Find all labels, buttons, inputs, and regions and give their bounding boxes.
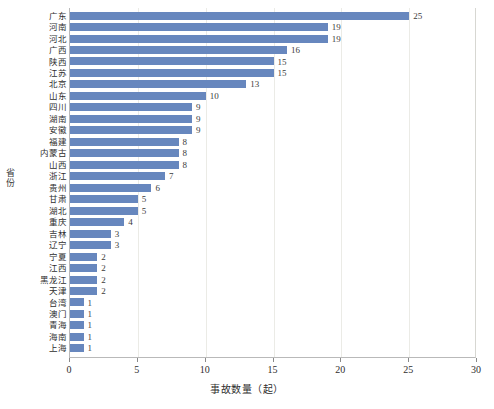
bar-value-label: 19	[332, 34, 341, 43]
bar	[70, 23, 328, 31]
category-label: 江西	[49, 264, 67, 273]
bar	[70, 207, 138, 215]
x-tick-mark	[273, 358, 274, 362]
bar-value-label: 25	[413, 11, 422, 20]
bar	[70, 149, 179, 157]
category-label: 广西	[49, 46, 67, 55]
bar-chart: 省 份 广东25河南19河北19广西16陕西15江苏15北京13山东10四川9湖…	[0, 0, 494, 409]
x-tick-mark	[408, 358, 409, 362]
bar-row: 内蒙古8	[70, 148, 477, 159]
bar	[70, 172, 165, 180]
bar-row: 湖南9	[70, 113, 477, 124]
bar-row: 江苏15	[70, 67, 477, 78]
bar-row: 澳门1	[70, 308, 477, 319]
bar	[70, 35, 328, 43]
bar-row: 贵州6	[70, 182, 477, 193]
bar-value-label: 1	[88, 321, 93, 330]
bar	[70, 161, 179, 169]
bar-value-label: 19	[332, 23, 341, 32]
bar-row: 天津2	[70, 285, 477, 296]
bar-row: 安徽9	[70, 125, 477, 136]
x-tick-label: 20	[335, 364, 345, 375]
bar	[70, 103, 192, 111]
category-label: 浙江	[49, 172, 67, 181]
bar-value-label: 8	[183, 137, 188, 146]
category-label: 天津	[49, 287, 67, 296]
category-label: 上海	[49, 344, 67, 353]
category-label: 山东	[49, 91, 67, 100]
bar	[70, 184, 151, 192]
x-tick-mark	[476, 358, 477, 362]
bar-row: 广西16	[70, 44, 477, 55]
category-label: 宁夏	[49, 252, 67, 261]
bar-row: 青海1	[70, 320, 477, 331]
x-tick-label: 10	[200, 364, 210, 375]
bar	[70, 333, 84, 341]
bar	[70, 218, 124, 226]
bar	[70, 46, 287, 54]
bar-row: 河北19	[70, 33, 477, 44]
bar-value-label: 5	[142, 195, 147, 204]
bar-value-label: 8	[183, 160, 188, 169]
bar-value-label: 1	[88, 344, 93, 353]
bar	[70, 298, 84, 306]
bar-value-label: 2	[101, 287, 106, 296]
bar-row: 广东25	[70, 10, 477, 21]
category-label: 青海	[49, 321, 67, 330]
bar-value-label: 1	[88, 332, 93, 341]
category-label: 四川	[49, 103, 67, 112]
bar-row: 福建8	[70, 136, 477, 147]
bar-row: 海南1	[70, 331, 477, 342]
bar-value-label: 15	[278, 69, 287, 78]
category-label: 重庆	[49, 218, 67, 227]
bar	[70, 264, 97, 272]
x-tick-mark	[69, 358, 70, 362]
bar-value-label: 1	[88, 298, 93, 307]
category-label: 台湾	[49, 298, 67, 307]
category-label: 湖南	[49, 114, 67, 123]
bar	[70, 230, 111, 238]
bar-value-label: 2	[101, 275, 106, 284]
bar-value-label: 8	[183, 149, 188, 158]
category-label: 海南	[49, 332, 67, 341]
bar-row: 台湾1	[70, 297, 477, 308]
bar	[70, 344, 84, 352]
bar	[70, 12, 409, 20]
bar-value-label: 10	[210, 91, 219, 100]
category-label: 陕西	[49, 57, 67, 66]
category-label: 福建	[49, 137, 67, 146]
bar-row: 上海1	[70, 343, 477, 354]
bar-row: 吉林3	[70, 228, 477, 239]
bar	[70, 276, 97, 284]
bar	[70, 126, 192, 134]
category-label: 安徽	[49, 126, 67, 135]
category-label: 甘肃	[49, 195, 67, 204]
bar-value-label: 13	[250, 80, 259, 89]
category-label: 澳门	[49, 310, 67, 319]
bar-row: 河南19	[70, 21, 477, 32]
x-tick-mark	[205, 358, 206, 362]
bar-row: 四川9	[70, 102, 477, 113]
x-tick-mark	[137, 358, 138, 362]
bar-row: 江西2	[70, 262, 477, 273]
plot-area: 广东25河南19河北19广西16陕西15江苏15北京13山东10四川9湖南9安徽…	[69, 8, 476, 358]
bar-row: 重庆4	[70, 217, 477, 228]
bar	[70, 69, 274, 77]
bar	[70, 241, 111, 249]
bar-value-label: 3	[115, 229, 120, 238]
bar-row: 宁夏2	[70, 251, 477, 262]
bar-row: 辽宁3	[70, 240, 477, 251]
bar-row: 黑龙江2	[70, 274, 477, 285]
bar-value-label: 15	[278, 57, 287, 66]
bar-value-label: 2	[101, 264, 106, 273]
bar-value-label: 1	[88, 310, 93, 319]
bar	[70, 321, 84, 329]
bar-row: 浙江7	[70, 171, 477, 182]
bar	[70, 253, 97, 261]
bar-value-label: 7	[169, 172, 174, 181]
bar-row: 北京13	[70, 79, 477, 90]
x-tick-label: 0	[67, 364, 72, 375]
bar-value-label: 5	[142, 206, 147, 215]
category-label: 湖北	[49, 206, 67, 215]
category-label: 山西	[49, 160, 67, 169]
